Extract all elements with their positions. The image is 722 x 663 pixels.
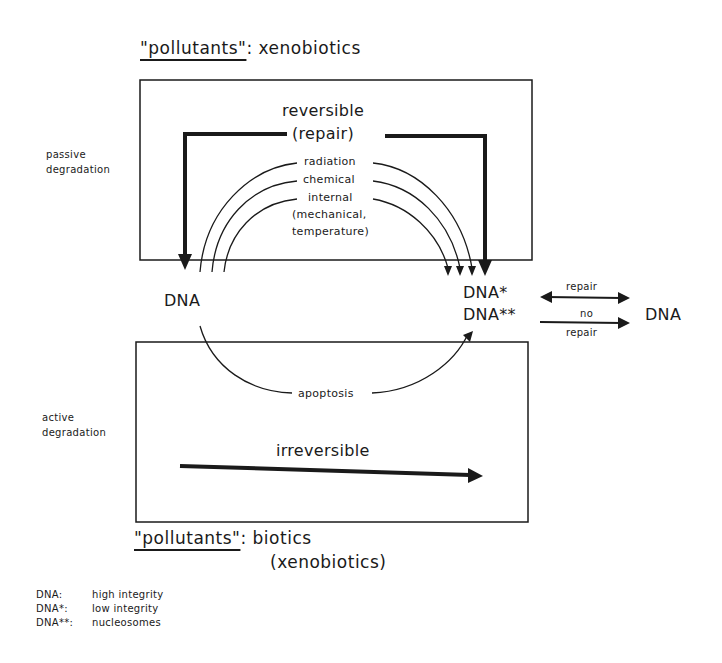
active-label-line2: degradation [42,428,106,438]
legend-value-high: high integrity [92,590,163,600]
passive-label-line2: degradation [46,165,110,175]
bottom-pollutants-heading: "pollutants": biotics [134,530,312,547]
top-pollutants-heading: "pollutants": xenobiotics [140,40,361,57]
xenobiotics-label: xenobiotics [259,38,361,58]
pollutants-label: "pollutants" [134,528,240,548]
dna-star-node: DNA* [463,285,507,301]
separator: : [240,528,246,548]
pollutants-label: "pollutants" [140,38,246,58]
passive-label-line1: passive [46,150,86,160]
xenobiotics-paren-label: (xenobiotics) [270,554,386,571]
dna-right-node: DNA [645,307,681,323]
apoptosis-arc [200,326,468,393]
irreversible-label: irreversible [276,443,370,459]
legend-value-low: low integrity [92,604,158,614]
biotics-label: biotics [253,528,312,548]
repair-arrow-label: repair [566,282,597,292]
cause-arrowheads [444,266,476,276]
repair-label: (repair) [292,126,354,142]
legend-value-nucleosomes: nucleosomes [92,618,161,628]
cause-radiation: radiation [304,156,356,167]
cause-temperature: temperature) [292,226,369,237]
no-repair-label-line1: no [580,309,593,319]
active-label-line1: active [42,413,74,423]
active-degradation-box [136,342,528,522]
separator: : [246,38,252,58]
repair-arrow-left [178,134,287,270]
reversible-label: reversible [282,103,364,119]
legend-key-dna: DNA: [36,590,62,600]
cause-internal: internal [308,192,353,203]
irreversible-arrow [180,466,483,483]
repair-double-arrow [540,291,630,304]
no-repair-label-line2: repair [566,328,597,338]
apoptosis-label: apoptosis [298,388,354,399]
cause-mechanical: (mechanical, [292,209,367,220]
legend-key-dna-star: DNA*: [36,604,68,614]
legend-key-dna-starstar: DNA**: [36,618,73,628]
repair-arrow-right [385,136,492,276]
cause-chemical: chemical [303,174,355,185]
dna-left-node: DNA [164,293,200,309]
dna-starstar-node: DNA** [463,307,516,323]
